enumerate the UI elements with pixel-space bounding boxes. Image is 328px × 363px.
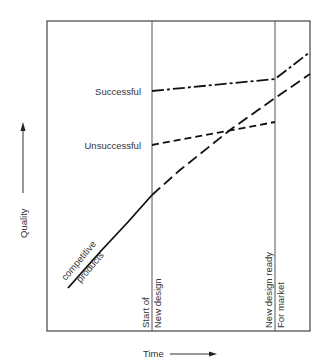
successful-label: Successful xyxy=(95,86,141,97)
milestone-ready-line1: New design ready xyxy=(263,252,274,328)
quality-time-diagram: Successful Unsuccessful competitive prod… xyxy=(0,0,328,363)
successful-curve xyxy=(152,52,310,91)
y-axis-label: Quality xyxy=(18,208,29,238)
milestone-ready-line2: For market xyxy=(275,282,286,328)
y-axis-label-group: Quality xyxy=(18,208,29,238)
milestone-start-line2: New design xyxy=(152,278,163,328)
milestone-start-line1: Start of xyxy=(140,297,151,328)
x-axis-arrowhead-icon xyxy=(209,352,217,357)
competitive-label: competitive products xyxy=(59,238,108,290)
y-axis-arrowhead-icon xyxy=(21,122,26,131)
unsuccessful-label: Unsuccessful xyxy=(85,140,142,151)
unsuccessful-curve xyxy=(152,122,275,145)
milestone-start-label: Start of New design xyxy=(140,278,163,328)
competitive-curve-projection xyxy=(152,74,310,195)
x-axis-label: Time xyxy=(143,348,164,359)
